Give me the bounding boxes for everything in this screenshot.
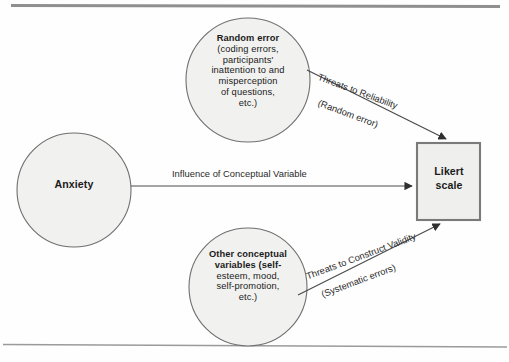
top-rule <box>11 6 500 7</box>
diagram-canvas <box>0 0 509 362</box>
node-other-conceptual-variables <box>189 228 307 346</box>
node-likert-scale <box>417 143 480 220</box>
node-random-error <box>186 18 310 142</box>
node-anxiety <box>17 133 131 247</box>
diagram-figure: Random error (coding errors, participant… <box>0 0 509 362</box>
edge-reliability-arrow <box>307 70 446 139</box>
edge-construct-validity-arrow <box>298 224 440 295</box>
